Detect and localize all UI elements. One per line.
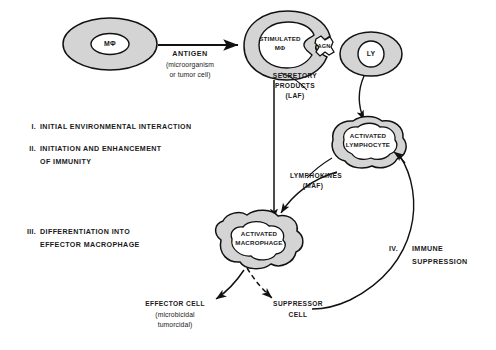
stage-text-1: INITIAL ENVIRONMENTAL INTERACTION	[40, 123, 250, 131]
stimulated-macrophage-label-line1: STIMULATED	[249, 35, 311, 42]
antigen-sublabel-1: (microorganism	[144, 61, 236, 69]
macrophage-label: MΦ	[87, 40, 133, 48]
stage-text-2b: OF IMMUNITY	[40, 158, 250, 166]
diagram-vector-layer	[0, 0, 496, 350]
stage-text-3b: EFFECTOR MACROPHAGE	[40, 241, 230, 249]
stage-text-2a: INITIATION AND ENHANCEMENT	[40, 145, 250, 153]
antigen-sublabel-2: or tumor cell)	[144, 71, 236, 79]
arrow-to-effector-cell	[216, 270, 244, 299]
arrow-lymphocyte-activation	[359, 76, 364, 120]
antigen-particle-label: AGN	[311, 43, 337, 50]
antigen-label: ANTIGEN	[152, 50, 228, 58]
suppressor-cell-line2: CELL	[258, 311, 338, 319]
effector-cell-sub2: tumorcidal)	[134, 321, 216, 329]
stage-numeral-3: III.	[14, 228, 36, 236]
arrow-to-suppressor-cell	[247, 268, 272, 298]
stimulated-macrophage-label-line2: MΦ	[249, 44, 311, 51]
suppressor-cell-line1: SUPPRESSOR	[258, 300, 338, 308]
stage-numeral-4: IV.	[389, 245, 407, 253]
effector-cell-sub1: (microbicidal	[134, 311, 216, 319]
stage-text-4b: SUPPRESSION	[412, 258, 492, 266]
lymphokines-line1: LYMPHOKINES	[277, 172, 355, 180]
lymphocyte-label: LY	[356, 50, 386, 58]
activated-macrophage-label-line1: ACTIVATED	[228, 230, 290, 237]
activated-lymphocyte-label-line1: ACTIVATED	[337, 132, 399, 139]
effector-cell-label: EFFECTOR CELL	[134, 300, 216, 308]
activated-lymphocyte-label-line2: LYMPHOCYTE	[334, 141, 402, 148]
stage-text-3a: DIFFERENTIATION INTO	[40, 228, 230, 236]
secretory-products-line3: (LAF)	[259, 92, 331, 100]
diagram-canvas: MΦ STIMULATED MΦ AGN LY ACTIVATED LYMPHO…	[0, 0, 496, 350]
stage-numeral-1: I.	[22, 123, 36, 131]
lymphokines-line2: (MAF)	[282, 182, 344, 190]
secretory-products-line2: PRODUCTS	[259, 82, 331, 90]
stage-text-4a: IMMUNE	[412, 245, 492, 253]
stage-numeral-2: II.	[18, 145, 36, 153]
activated-macrophage-label-line2: MACROPHAGE	[222, 239, 296, 246]
secretory-products-line1: SECRETORY	[259, 72, 331, 80]
